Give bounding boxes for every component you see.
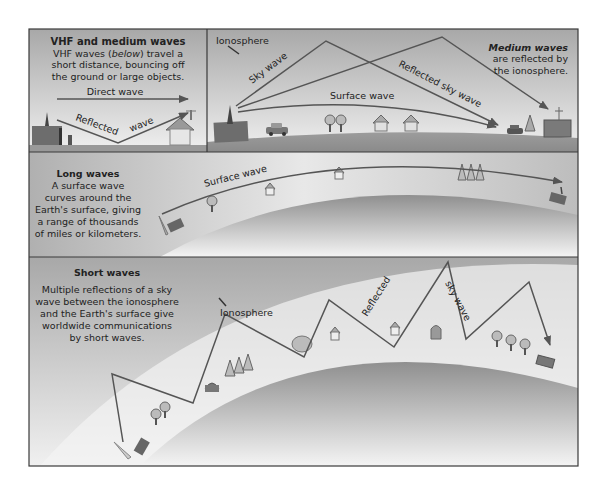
long-desc-line: a range of thousands xyxy=(37,216,138,227)
long-desc-line: A surface wave xyxy=(52,180,125,191)
long-desc-line: curves around the xyxy=(45,192,132,203)
long-desc-line: of miles or kilometers. xyxy=(35,228,141,239)
trees-icon xyxy=(458,164,484,180)
medium-title: Medium waves xyxy=(489,42,569,53)
direct-wave-label: Direct wave xyxy=(87,86,144,97)
short-desc-line: by short waves. xyxy=(69,332,144,343)
short-desc-line: wave between the ionosphere xyxy=(35,296,179,307)
ionosphere-label: Ionosphere xyxy=(216,35,269,46)
vhf-title: VHF and medium waves xyxy=(51,36,186,47)
vhf-desc-line1: VHF waves (below) travel a xyxy=(53,48,183,59)
short-ionosphere-label: Ionosphere xyxy=(220,307,273,318)
long-desc-line: Earth's surface, giving xyxy=(35,204,141,215)
short-desc-line: worldwide communications xyxy=(42,320,172,331)
surface-wave-label: Surface wave xyxy=(330,90,394,101)
medium-desc-line1: are reflected by xyxy=(493,53,569,64)
short-desc-line: Multiple reflections of a sky xyxy=(42,284,173,295)
radio-waves-diagram: VHF and medium waves VHF waves (below) t… xyxy=(0,0,604,488)
short-desc-line: and the Earth's surface give xyxy=(40,308,174,319)
gravestone-icon xyxy=(431,326,441,340)
long-title: Long waves xyxy=(57,168,120,179)
short-title: Short waves xyxy=(74,267,140,278)
vhf-desc-line3: the ground or large objects. xyxy=(52,71,184,82)
vhf-desc-line2: short distance, bouncing off xyxy=(52,59,185,70)
medium-desc-line2: the ionosphere. xyxy=(494,65,568,76)
